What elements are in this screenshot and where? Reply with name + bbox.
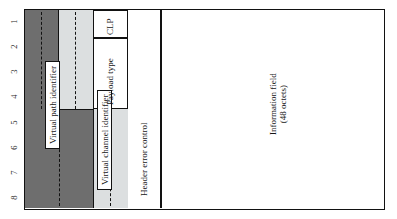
header-error-control-label: Header error control — [139, 123, 149, 196]
payload-type-label: Payload type — [105, 58, 115, 105]
bit-boundary-dash-vpi-upper — [41, 12, 42, 109]
information-field-label-group: Information field (48 octets) — [268, 73, 289, 135]
bit-number-gutter: 1 2 3 4 5 6 7 8 — [6, 9, 23, 210]
atm-cell-format-figure: 1 2 3 4 5 6 7 8 Virtual path identifier — [0, 0, 397, 219]
cell-frame: Virtual path identifier Virtual channel … — [24, 9, 385, 210]
information-field-size-label: (48 octets) — [278, 73, 288, 135]
divider-hec-information — [161, 10, 162, 208]
virtual-path-identifier-label: Virtual path identifier — [45, 61, 60, 149]
clp-label: CLP — [105, 18, 115, 35]
divider-vpi-step — [58, 109, 93, 110]
divider-vpi-vci-lower — [93, 109, 94, 208]
information-field-label: Information field — [268, 73, 278, 135]
bit-boundary-dash-vci-upper — [75, 12, 76, 109]
